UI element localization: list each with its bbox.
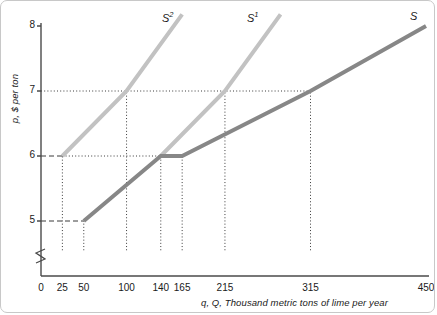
x-tick-label-215: 215	[208, 282, 242, 293]
y-tick-label-5: 5	[21, 214, 35, 225]
x-axis-title: q, Q, Thousand metric tons of lime per y…	[201, 297, 388, 308]
curve-label-s: S	[410, 10, 417, 22]
supply-curve-s2	[62, 14, 182, 156]
curve-label-s2: S2	[162, 10, 174, 24]
axes-layer	[36, 23, 429, 276]
supply-curve-plot	[1, 1, 435, 313]
y-tick-label-7: 7	[21, 84, 35, 95]
y-tick-label-6: 6	[21, 149, 35, 160]
guide-lines-layer	[41, 91, 311, 250]
supply-curve-s	[84, 26, 426, 221]
chart-card: p, $ per ton q, Q, Thousand metric tons …	[0, 0, 435, 313]
x-tick-label-50: 50	[67, 282, 101, 293]
x-tick-label-165: 165	[165, 282, 199, 293]
supply-curves-layer	[62, 14, 426, 221]
y-axis-title: p, $ per ton	[9, 60, 20, 138]
x-tick-label-450: 450	[409, 282, 435, 293]
curve-label-s1: S1	[247, 10, 259, 24]
x-tick-label-315: 315	[294, 282, 328, 293]
y-tick-label-8: 8	[21, 19, 35, 30]
x-tick-label-100: 100	[110, 282, 144, 293]
y-axis-break-icon	[36, 249, 45, 263]
